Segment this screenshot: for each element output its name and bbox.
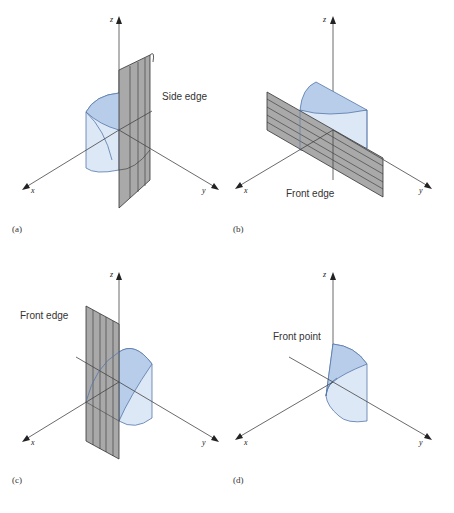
panel-d-diagram [227,256,454,512]
x-axis-label: x [31,186,35,195]
caption-a: (a) [12,224,22,234]
y-axis-label: y [202,438,206,447]
panel-b: z x y Front edge (b) [227,0,454,256]
x-arrow-icon [22,183,30,190]
z-axis-label: z [323,270,326,279]
y-axis-label: y [202,186,206,195]
caption-c: (c) [12,475,22,485]
panel-b-diagram [227,0,454,256]
z-arrow-icon [116,16,122,24]
panel-c-diagram [0,256,227,512]
caption-d: (d) [233,475,244,485]
front-edge-annotation: Front edge [20,310,68,321]
x-axis-label: x [31,438,35,447]
x-axis-label: x [244,186,248,195]
x-axis-label: x [244,438,248,447]
y-axis-label: y [419,438,423,447]
z-axis-label: z [110,270,113,279]
panel-d: z x y Front point (d) [227,256,454,512]
panel-a-diagram [0,0,227,256]
caption-b: (b) [233,224,244,234]
front-point-annotation: Front point [273,331,321,342]
y-arrow-icon [211,183,219,190]
y-axis-label: y [419,186,423,195]
z-axis-label: z [110,15,113,24]
side-edge-annotation: Side edge [162,91,207,102]
z-axis-label: z [323,15,326,24]
panel-c: z x y Front edge (c) [0,256,227,512]
panel-a: z x y Side edge (a) [0,0,227,256]
front-edge-annotation: Front edge [286,188,334,199]
